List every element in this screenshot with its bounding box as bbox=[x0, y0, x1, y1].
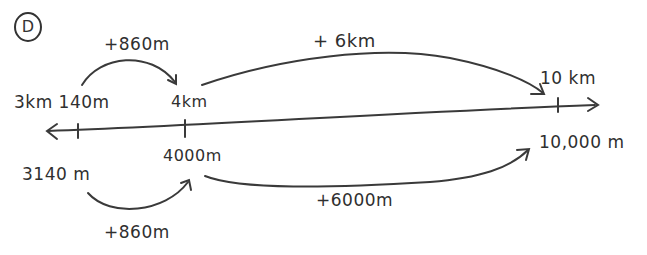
bottom-jump-label-2: +6000m bbox=[316, 190, 393, 210]
number-line bbox=[48, 105, 595, 131]
bottom-jump-arrow-2 bbox=[205, 150, 528, 187]
top-jump-arrow-1 bbox=[82, 60, 175, 85]
tick-label-bottom-2: 4000m bbox=[163, 146, 222, 165]
tick-label-bottom-1: 3140 m bbox=[22, 164, 90, 184]
tick-label-top-2: 4km bbox=[171, 92, 208, 111]
tick-label-top-1: 3km 140m bbox=[14, 92, 110, 112]
top-jump-label-1: +860m bbox=[104, 34, 170, 54]
bottom-jump-label-1: +860m bbox=[104, 222, 170, 242]
tick-label-bottom-3: 10,000 m bbox=[539, 132, 624, 152]
bottom-jump-arrow-1 bbox=[88, 182, 188, 209]
top-jump-label-2: + 6km bbox=[313, 30, 376, 51]
top-jump-arrow-2 bbox=[202, 53, 543, 93]
tick-label-top-3: 10 km bbox=[540, 68, 596, 88]
